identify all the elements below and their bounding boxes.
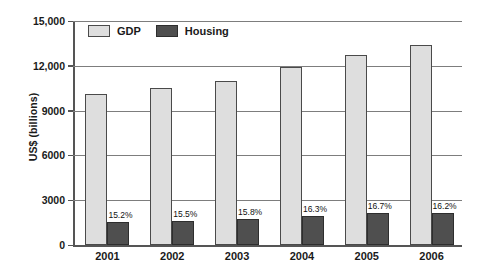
x-axis-tick-label: 2005 — [355, 250, 379, 262]
bar-gdp[interactable] — [215, 81, 237, 245]
bar-housing[interactable] — [172, 221, 194, 245]
legend-item-housing: Housing — [156, 25, 229, 37]
bar-gdp[interactable] — [150, 88, 172, 245]
x-axis-tick-label: 2004 — [290, 250, 314, 262]
gridline — [73, 200, 462, 201]
bar-housing[interactable] — [237, 219, 259, 245]
bar-chart: US$ (billions) 030006000900012,00015,000… — [0, 0, 483, 278]
plot-area: 15.2%15.5%15.8%16.3%16.7%16.2% — [73, 21, 462, 245]
legend-label-gdp: GDP — [117, 25, 141, 37]
bar-group: 15.8% — [215, 21, 259, 245]
gridline — [73, 21, 462, 22]
bar-value-label: 16.7% — [368, 201, 392, 211]
y-axis-tick-label: 0 — [9, 239, 65, 251]
x-axis-tick-label: 2006 — [419, 250, 443, 262]
legend-swatch-gdp-icon — [88, 25, 110, 37]
chart-legend: GDP Housing — [88, 25, 229, 37]
x-axis-tick-label: 2002 — [160, 250, 184, 262]
y-axis-tick-label: 12,000 — [9, 60, 65, 72]
bar-value-label: 16.3% — [303, 204, 327, 214]
gridline — [73, 245, 462, 247]
bar-housing[interactable] — [302, 216, 324, 245]
bar-housing[interactable] — [432, 213, 454, 245]
gridline — [73, 66, 462, 67]
bar-group: 16.3% — [280, 21, 324, 245]
bar-group: 16.2% — [410, 21, 454, 245]
gridline — [73, 155, 462, 156]
bar-gdp[interactable] — [85, 94, 107, 245]
legend-label-housing: Housing — [185, 25, 229, 37]
y-axis-tick-label: 9000 — [9, 105, 65, 117]
gridline — [73, 111, 462, 112]
bar-gdp[interactable] — [280, 67, 302, 245]
y-axis-tick-labels: 030006000900012,00015,000 — [8, 21, 65, 245]
bar-group: 15.5% — [150, 21, 194, 245]
x-axis-tick-labels: 200120022003200420052006 — [73, 250, 462, 270]
x-axis-tick-label: 2001 — [95, 250, 119, 262]
y-axis-tick-label: 3000 — [9, 194, 65, 206]
bar-gdp[interactable] — [345, 55, 367, 245]
bar-value-label: 16.2% — [433, 201, 457, 211]
bar-gdp[interactable] — [410, 45, 432, 245]
legend-swatch-housing-icon — [156, 25, 178, 37]
bar-value-label: 15.8% — [238, 207, 262, 217]
x-axis-tick-label: 2003 — [225, 250, 249, 262]
y-axis-tick-label: 6000 — [9, 149, 65, 161]
bar-value-label: 15.2% — [108, 210, 132, 220]
bar-housing[interactable] — [107, 222, 129, 245]
y-axis-tick-label: 15,000 — [9, 15, 65, 27]
bar-housing[interactable] — [367, 213, 389, 245]
legend-item-gdp: GDP — [88, 25, 141, 37]
bar-group: 16.7% — [345, 21, 389, 245]
bar-group: 15.2% — [85, 21, 129, 245]
bar-value-label: 15.5% — [173, 209, 197, 219]
